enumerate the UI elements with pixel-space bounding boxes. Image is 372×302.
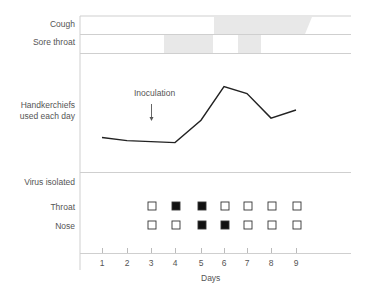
x-tick-label: 6 [217,258,231,268]
x-tick-label: 3 [144,258,158,268]
x-tick-label: 2 [120,258,134,268]
x-tick-label: 4 [168,258,182,268]
nose-virus-marker-day-7 [244,221,252,229]
throat-virus-marker-day-5 [198,202,206,210]
nose-virus-marker-day-6 [221,221,229,229]
x-tick-label: 7 [240,258,254,268]
nose-virus-marker-day-9 [293,221,301,229]
row-label-throat: Throat [50,202,75,212]
x-tick-label: 5 [194,258,208,268]
row-label-cough: Cough [50,19,75,29]
throat-virus-marker-day-6 [221,202,229,210]
handkerchief-line [102,87,296,143]
nose-virus-marker-day-5 [198,221,206,229]
row-label-handkerchiefs-2: used each day [20,111,75,121]
sore-throat-shade-1 [164,35,213,53]
row-label-virus-isolated: Virus isolated [24,177,75,187]
x-tick-label: 9 [289,258,303,268]
row-label-handkerchiefs-1: Handkerchiefs [21,100,75,110]
throat-virus-marker-day-7 [244,202,252,210]
row-label-sore-throat: Sore throat [33,37,75,47]
symptom-timeline-chart: Cough Sore throat Handkerchiefs used eac… [0,0,372,302]
nose-virus-marker-day-4 [172,221,180,229]
x-axis-label: Days [201,273,220,283]
throat-virus-marker-day-8 [268,202,276,210]
x-tick-label: 8 [264,258,278,268]
sore-throat-shade-2 [238,35,261,53]
throat-virus-marker-day-3 [148,202,156,210]
nose-virus-marker-day-3 [148,221,156,229]
inoculation-label: Inoculation [134,88,175,98]
x-tick-label: 1 [95,258,109,268]
throat-virus-marker-day-4 [172,202,180,210]
virus-markers [148,202,301,229]
row-label-nose: Nose [55,221,75,231]
inoculation-arrowhead [150,117,154,121]
x-axis-ticks [103,248,297,253]
cough-shade [214,17,312,34]
nose-virus-marker-day-8 [268,221,276,229]
throat-virus-marker-day-9 [293,202,301,210]
